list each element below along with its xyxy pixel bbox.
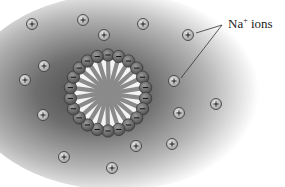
sodium-ion xyxy=(59,152,70,163)
na-ions-label: Na+ ions xyxy=(228,16,273,32)
micelle xyxy=(64,49,152,137)
sodium-ion xyxy=(39,61,50,72)
sodium-ion xyxy=(107,163,118,174)
sodium-ion xyxy=(99,30,110,41)
sodium-ion xyxy=(138,19,149,30)
sodium-ion xyxy=(167,139,178,150)
sodium-ion xyxy=(78,15,89,26)
sodium-ion xyxy=(38,110,49,121)
sodium-ion xyxy=(183,30,194,41)
sodium-ion xyxy=(169,76,180,87)
sodium-ion xyxy=(20,75,31,86)
micelle-diagram: Na+ ions xyxy=(0,0,285,187)
sodium-ion xyxy=(131,141,142,152)
anionic-head-group xyxy=(91,50,103,62)
sodium-ion xyxy=(27,19,38,30)
sodium-ion xyxy=(211,99,222,110)
sodium-ion xyxy=(174,108,185,119)
